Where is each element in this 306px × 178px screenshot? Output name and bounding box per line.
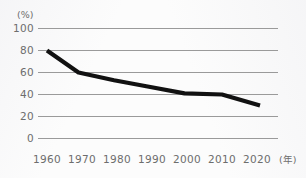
y-tick-label-60: 60 [20,66,34,78]
chart-figure: (%) 100 80 60 40 20 0 1960 1970 1980 199… [0,0,306,178]
y-tick-label-80: 80 [20,44,34,56]
y-tick-label-0: 0 [27,132,34,144]
line-chart: (%) 100 80 60 40 20 0 1960 1970 1980 199… [0,0,306,178]
x-tick-label-2020: 2020 [243,153,271,165]
y-tick-label-100: 100 [13,22,34,34]
y-tick-label-40: 40 [20,88,34,100]
x-axis-tick-labels: 1960 1970 1980 1990 2000 2010 2020 [33,153,271,165]
x-tick-label-1990: 1990 [138,153,166,165]
x-tick-label-1970: 1970 [68,153,96,165]
data-series-line [47,51,260,106]
y-tick-label-20: 20 [20,110,34,122]
x-tick-label-2000: 2000 [173,153,201,165]
gridlines [38,29,278,139]
y-axis-unit-label: (%) [17,9,33,20]
x-axis-unit-label: (年) [279,154,296,165]
y-axis-tick-labels: 100 80 60 40 20 0 [13,22,34,144]
x-tick-label-1980: 1980 [103,153,131,165]
x-tick-label-2010: 2010 [208,153,236,165]
x-tick-label-1960: 1960 [33,153,61,165]
